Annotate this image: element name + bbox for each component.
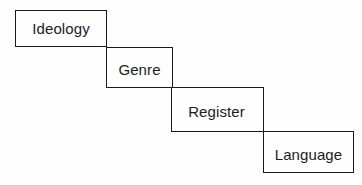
- level-box-ideology: Ideology: [15, 10, 107, 47]
- level-label-ideology: Ideology: [32, 20, 90, 37]
- level-box-language: Language: [263, 131, 354, 173]
- level-label-register: Register: [188, 100, 247, 120]
- level-box-register: Register: [171, 87, 264, 132]
- level-box-genre: Genre: [106, 47, 173, 88]
- level-label-language: Language: [275, 142, 343, 163]
- level-label-genre: Genre: [118, 58, 160, 78]
